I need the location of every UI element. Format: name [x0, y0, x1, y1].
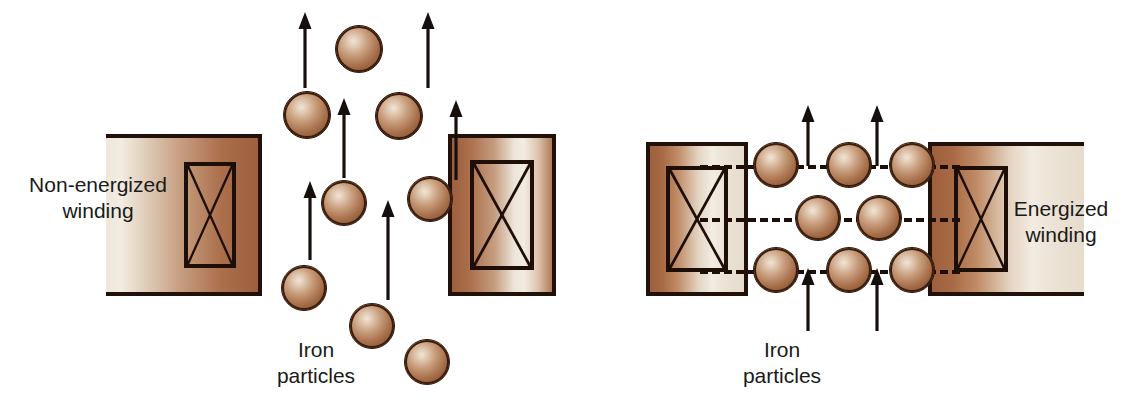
random-motion-arrow-4 — [445, 92, 467, 188]
iron-particle-aligned-r3-c2 — [826, 247, 872, 293]
iron-particles-label-left: Iron particles — [256, 337, 376, 389]
energized-winding-label: Energized winding — [986, 196, 1136, 248]
magnetic-particle-diagram: Non-energized winding Iron particles Ene… — [0, 0, 1144, 415]
iron-particle-aligned-r3-c1 — [753, 247, 799, 293]
iron-particle-aligned-r1-c2 — [826, 142, 872, 188]
random-motion-arrow-1 — [294, 4, 316, 96]
non-energized-winding-label: Non-energized winding — [8, 172, 188, 224]
flux-arrow-top-1 — [797, 97, 819, 174]
iron-particle-scattered-1 — [335, 25, 383, 73]
flux-arrow-bottom-1 — [797, 260, 819, 339]
iron-particle-aligned-r1-c1 — [753, 142, 799, 188]
iron-particle-scattered-8 — [404, 339, 450, 385]
iron-particle-scattered-6 — [281, 265, 327, 311]
iron-particle-aligned-r2-c2 — [856, 195, 902, 241]
random-motion-arrow-5 — [299, 173, 321, 268]
coil-cross-right — [470, 160, 534, 270]
iron-particle-scattered-5 — [407, 176, 453, 222]
iron-particle-scattered-4 — [321, 180, 367, 226]
iron-particles-label-right: Iron particles — [722, 337, 842, 389]
coil-cross-left — [184, 162, 236, 268]
random-motion-arrow-6 — [377, 192, 399, 308]
iron-particle-aligned-r1-c3 — [889, 142, 935, 188]
iron-particle-scattered-2 — [283, 91, 331, 139]
random-motion-arrow-3 — [333, 90, 355, 186]
iron-particle-aligned-r3-c3 — [889, 247, 935, 293]
iron-particle-scattered-3 — [375, 92, 423, 140]
iron-particle-aligned-r2-c1 — [795, 195, 841, 241]
random-motion-arrow-2 — [417, 4, 439, 96]
